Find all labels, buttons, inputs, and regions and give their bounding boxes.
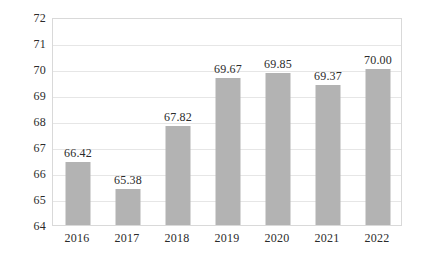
y-axis-tick-label: 67 [2, 142, 46, 154]
bar [316, 85, 341, 225]
y-axis-tick-label: 64 [2, 220, 46, 232]
x-axis: 2016201720182019202020212022 [52, 231, 402, 251]
bar [266, 73, 291, 225]
bar-value-label: 67.82 [164, 110, 192, 125]
x-axis-tick-label: 2020 [252, 231, 302, 246]
y-axis-tick-label: 68 [2, 116, 46, 128]
bar-value-label: 69.85 [264, 57, 292, 72]
plot-area: 66.4265.3867.8269.6769.8569.3770.00 [52, 18, 402, 226]
bar-value-label: 66.42 [64, 146, 92, 161]
bar-group: 66.42 [53, 19, 103, 225]
bar-group: 67.82 [153, 19, 203, 225]
x-axis-tick-label: 2021 [302, 231, 352, 246]
bar-chart: 646566676869707172 66.4265.3867.8269.676… [0, 0, 422, 265]
bar-group: 69.67 [203, 19, 253, 225]
bar [66, 162, 91, 225]
bar [366, 69, 391, 225]
y-axis-tick-label: 72 [2, 12, 46, 24]
y-axis-tick-label: 69 [2, 90, 46, 102]
x-axis-tick-label: 2016 [52, 231, 102, 246]
x-axis-tick-label: 2022 [352, 231, 402, 246]
bar [216, 78, 241, 225]
bar [116, 189, 141, 225]
y-axis-tick-label: 70 [2, 64, 46, 76]
y-axis-tick-label: 71 [2, 38, 46, 50]
bar-group: 70.00 [353, 19, 403, 225]
y-axis-tick-label: 65 [2, 194, 46, 206]
bar-value-label: 65.38 [114, 173, 142, 188]
bar [166, 126, 191, 225]
x-axis-tick-label: 2017 [102, 231, 152, 246]
x-axis-tick-label: 2018 [152, 231, 202, 246]
y-axis: 646566676869707172 [0, 18, 46, 226]
bar-value-label: 69.67 [214, 62, 242, 77]
bar-value-label: 69.37 [314, 69, 342, 84]
y-axis-tick-label: 66 [2, 168, 46, 180]
x-axis-tick-label: 2019 [202, 231, 252, 246]
bar-group: 69.85 [253, 19, 303, 225]
bar-group: 65.38 [103, 19, 153, 225]
bar-value-label: 70.00 [364, 53, 392, 68]
bar-group: 69.37 [303, 19, 353, 225]
